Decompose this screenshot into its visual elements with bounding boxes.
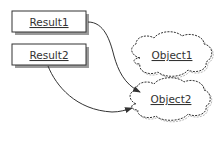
object2-node: Object2 — [130, 78, 212, 122]
edge-result2-object2 — [48, 66, 132, 112]
result2-label: Result2 — [29, 49, 68, 61]
object1-node: Object1 — [132, 32, 214, 78]
result2-node: Result2 — [12, 44, 89, 68]
result1-label: Result1 — [29, 16, 68, 28]
diagram-canvas: Result1 Result2 Object1 Object2 — [0, 0, 224, 147]
object1-label: Object1 — [152, 49, 193, 61]
edge-result1-object2 — [88, 22, 140, 92]
result1-node: Result1 — [12, 11, 89, 35]
object2-label: Object2 — [151, 93, 192, 105]
